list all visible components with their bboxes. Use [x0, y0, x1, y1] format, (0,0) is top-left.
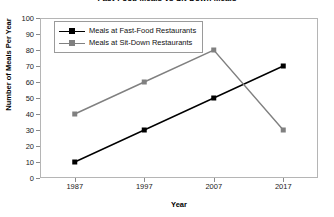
legend-item[interactable]: Meals at Sit-Down Restaurants [59, 37, 196, 49]
series-line [75, 66, 284, 162]
chart-container: Fast-Food Meals vs Sit-Down Meals Number… [0, 0, 334, 217]
legend-label: Meals at Sit-Down Restaurants [89, 38, 192, 48]
data-point-marker[interactable] [211, 48, 216, 53]
x-tick-label: 2017 [258, 182, 308, 191]
y-tick-label: 30 [12, 126, 34, 135]
legend-label: Meals at Fast-Food Restaurants [89, 26, 196, 36]
x-tick-label: 1997 [119, 182, 169, 191]
data-point-marker[interactable] [281, 128, 286, 133]
x-tick-label: 1987 [50, 182, 100, 191]
y-tick-label: 80 [12, 46, 34, 55]
y-tick-label: 10 [12, 158, 34, 167]
y-tick-label: 50 [12, 94, 34, 103]
y-tick-label: 70 [12, 62, 34, 71]
data-point-marker[interactable] [211, 96, 216, 101]
x-tick-label: 2007 [189, 182, 239, 191]
legend-marker-icon [59, 38, 85, 48]
y-tick-label: 0 [12, 174, 34, 183]
x-axis-title: Year [40, 200, 318, 209]
chart-title: Fast-Food Meals vs Sit-Down Meals [0, 0, 334, 3]
y-tick-label: 40 [12, 110, 34, 119]
x-tick-mark [75, 178, 76, 182]
y-tick-label: 100 [12, 14, 34, 23]
series-line [75, 50, 284, 130]
data-point-marker[interactable] [72, 160, 77, 165]
x-tick-mark [283, 178, 284, 182]
x-tick-mark [144, 178, 145, 182]
y-tick-label: 90 [12, 30, 34, 39]
chart-legend: Meals at Fast-Food Restaurants Meals at … [54, 21, 203, 53]
y-tick-label: 20 [12, 142, 34, 151]
y-tick-label: 60 [12, 78, 34, 87]
data-point-marker[interactable] [142, 80, 147, 85]
data-point-marker[interactable] [281, 64, 286, 69]
legend-item[interactable]: Meals at Fast-Food Restaurants [59, 25, 196, 37]
x-tick-mark [214, 178, 215, 182]
data-point-marker[interactable] [142, 128, 147, 133]
legend-marker-icon [59, 26, 85, 36]
y-tick-mark [36, 178, 40, 179]
data-point-marker[interactable] [72, 112, 77, 117]
